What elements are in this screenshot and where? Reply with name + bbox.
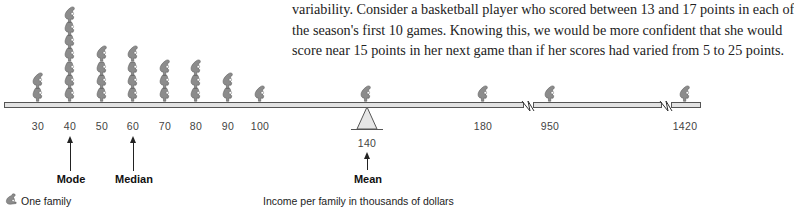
tick-label-60: 60 [127,120,139,132]
family-figure-icon [217,72,239,89]
tick-label-50: 50 [96,120,108,132]
mean-label: Mean [354,173,382,185]
tick-label-1420: 1420 [673,120,698,132]
tick-label-30: 30 [32,120,44,132]
tick-label-950: 950 [541,120,559,132]
paragraph-line: variability. Consider a basketball playe… [292,0,706,20]
family-figure-icon [122,45,144,62]
tick-label-70: 70 [159,120,171,132]
family-figure-icon [539,85,561,102]
tick-label-40: 40 [64,120,76,132]
body-paragraph: variability. Consider a basketball playe… [292,0,706,61]
axis-break-icon [520,98,536,114]
seesaw-beam-segment-3 [671,102,701,108]
axis-break-icon [658,98,674,114]
family-figure-icon [154,59,176,76]
median-label: Median [115,173,153,185]
tick-label-90: 90 [222,120,234,132]
mode-label: Mode [57,173,86,185]
family-figure-icon [185,59,207,76]
tick-label-mean-140: 140 [358,137,376,149]
tick-label-100: 100 [251,120,269,132]
mode-arrow [70,141,71,171]
seesaw-beam-segment-1 [4,102,524,108]
seesaw-beam-segment-2 [533,102,662,108]
tick-label-180: 180 [474,120,492,132]
family-figure-icon [249,85,271,102]
median-arrow [133,141,134,171]
fulcrum-triangle-icon [351,107,383,131]
mean-arrow [367,157,368,170]
tick-label-80: 80 [190,120,202,132]
family-figure-icon [674,85,696,102]
family-figure-icon [59,6,81,23]
legend-label: One family [21,195,71,207]
axis-title: Income per family in thousands of dollar… [263,195,454,207]
family-figure-icon [91,45,113,62]
family-figure-icon [355,85,377,102]
paragraph-line: score near 15 points in her next game th… [292,40,706,61]
family-figure-icon [472,85,494,102]
seated-person-icon [3,191,19,208]
paragraph-line: the season's first 10 games. Knowing thi… [292,20,706,41]
family-figure-icon [27,72,49,89]
